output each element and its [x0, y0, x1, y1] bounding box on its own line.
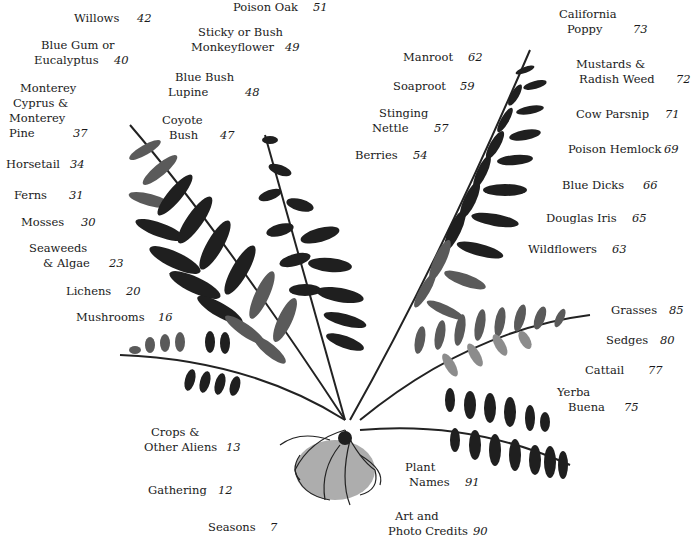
page-number: 59 [460, 79, 475, 94]
fern-roots [280, 430, 381, 505]
toc-entry-art-photo-credits[interactable]: Art and Photo Credits 90 [388, 509, 468, 539]
toc-entry-lichens[interactable]: Lichens 20 [66, 284, 111, 299]
page-number: 71 [665, 107, 680, 122]
page-number: 90 [473, 524, 488, 539]
toc-entry-stinging-nettle[interactable]: Stinging Nettle 57 [372, 106, 428, 136]
page-number: 49 [285, 40, 300, 55]
toc-entry-plant-names[interactable]: Plant Names 91 [405, 460, 450, 490]
toc-entry-yerba-buena[interactable]: Yerba Buena 75 [557, 385, 605, 415]
toc-entry-manroot[interactable]: Manroot 62 [403, 50, 453, 65]
toc-entry-soaproot[interactable]: Soaproot 59 [393, 79, 446, 94]
page-number: 80 [660, 333, 675, 348]
toc-entry-horsetail[interactable]: Horsetail 34 [6, 157, 60, 172]
toc-entry-seasons[interactable]: Seasons 7 [208, 520, 256, 535]
page-number: 48 [245, 85, 260, 100]
toc-entry-mosses[interactable]: Mosses 30 [21, 215, 64, 230]
page-number: 20 [126, 284, 141, 299]
toc-entry-mustards[interactable]: Mustards & Radish Weed 72 [576, 57, 655, 87]
page-number: 23 [109, 256, 124, 271]
toc-entry-blue-gum[interactable]: Blue Gum or Eucalyptus 40 [34, 38, 115, 68]
page-number: 40 [114, 53, 129, 68]
page-number: 42 [137, 11, 152, 26]
toc-entry-grasses[interactable]: Grasses 85 [611, 303, 657, 318]
page-number: 91 [465, 475, 480, 490]
toc-entry-berries[interactable]: Berries 54 [355, 148, 398, 163]
toc-entry-wildflowers[interactable]: Wildflowers 63 [528, 242, 597, 257]
page-number: 51 [313, 0, 328, 15]
fern-frond-middle [257, 136, 368, 354]
page-number: 72 [676, 72, 691, 87]
toc-entry-poison-hemlock[interactable]: Poison Hemlock 69 [568, 142, 662, 157]
page-number: 77 [648, 363, 663, 378]
toc-entry-california-poppy[interactable]: California Poppy 73 [559, 7, 617, 37]
page-number: 37 [73, 126, 88, 141]
page-number: 54 [413, 148, 428, 163]
toc-entry-willows[interactable]: Willows 42 [74, 11, 119, 26]
toc-entry-blue-dicks[interactable]: Blue Dicks 66 [562, 178, 624, 193]
toc-entry-sedges[interactable]: Sedges 80 [606, 333, 648, 348]
page-number: 75 [624, 400, 639, 415]
toc-entry-douglas-iris[interactable]: Douglas Iris 65 [546, 211, 617, 226]
page-number: 7 [270, 520, 277, 535]
toc-entry-poison-oak[interactable]: Poison Oak 51 [233, 0, 298, 15]
page-number: 63 [612, 242, 627, 257]
page-number: 85 [669, 303, 684, 318]
page-number: 47 [220, 128, 235, 143]
toc-entry-gathering[interactable]: Gathering 12 [148, 483, 207, 498]
toc-entry-cow-parsnip[interactable]: Cow Parsnip 71 [576, 107, 649, 122]
page-number: 62 [468, 50, 483, 65]
page-number: 16 [158, 310, 173, 325]
toc-entry-blue-bush-lupine[interactable]: Blue Bush Lupine 48 [168, 70, 234, 100]
toc-entry-cattail[interactable]: Cattail 77 [585, 363, 624, 378]
fern-frond-right-tall [411, 64, 548, 323]
page-number: 73 [633, 22, 648, 37]
toc-entry-seaweeds[interactable]: Seaweeds & Algae 23 [29, 241, 90, 271]
toc-entry-mushrooms[interactable]: Mushrooms 16 [76, 310, 145, 325]
page-number: 57 [434, 121, 449, 136]
page-number: 13 [226, 440, 241, 455]
page-number: 66 [643, 178, 658, 193]
toc-entry-coyote-bush[interactable]: Coyote Bush 47 [162, 113, 203, 143]
toc-entry-crops-aliens[interactable]: Crops & Other Aliens 13 [144, 425, 217, 455]
page-number: 31 [69, 188, 84, 203]
page-number: 30 [81, 215, 96, 230]
page-number: 69 [664, 142, 679, 157]
page-number: 12 [218, 483, 233, 498]
toc-entry-sticky-monkeyflower[interactable]: Sticky or Bush Monkeyflower 49 [191, 25, 283, 55]
toc-entry-ferns[interactable]: Ferns 31 [14, 188, 47, 203]
page-number: 34 [70, 157, 85, 172]
page-number: 65 [632, 211, 647, 226]
toc-entry-monterey[interactable]: Monterey Cyprus & Monterey Pine 37 [9, 81, 76, 141]
fern-frond-lower-left [129, 331, 242, 397]
